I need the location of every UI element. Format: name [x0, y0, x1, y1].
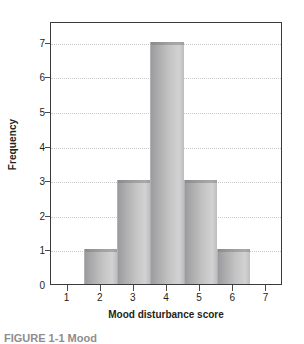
x-axis-ticklabel: 7	[263, 292, 269, 303]
figure-histogram: Frequency 01234567 1234567 Mood disturba…	[0, 0, 304, 344]
x-axis-tick	[265, 285, 266, 291]
x-axis-tick	[67, 285, 68, 291]
x-axis-tick	[133, 285, 134, 291]
x-axis-ticks	[50, 285, 282, 292]
figure-caption: FIGURE 1-1 Mood	[4, 334, 204, 344]
x-axis-ticklabel: 1	[64, 292, 70, 303]
y-axis-title-text: Frequency	[8, 118, 19, 169]
x-axis-tick	[232, 285, 233, 291]
y-axis-title: Frequency	[0, 0, 26, 288]
bar	[184, 180, 217, 284]
x-axis-ticklabel: 4	[163, 292, 169, 303]
x-axis-ticklabel: 2	[97, 292, 103, 303]
x-axis-tick	[166, 285, 167, 291]
x-axis-ticklabels: 1234567	[50, 292, 282, 306]
bar	[84, 249, 117, 284]
x-axis-tick	[100, 285, 101, 291]
plot-frame	[50, 22, 282, 285]
plot-area	[51, 23, 281, 284]
x-axis-ticklabel: 3	[130, 292, 136, 303]
figure-caption-text: FIGURE 1-1 Mood	[4, 334, 204, 344]
x-axis-tick	[199, 285, 200, 291]
bar	[150, 42, 183, 284]
x-axis-ticklabel: 5	[196, 292, 202, 303]
bar	[217, 249, 250, 284]
bar	[117, 180, 150, 284]
x-axis-ticklabel: 6	[230, 292, 236, 303]
x-axis-title: Mood disturbance score	[50, 309, 282, 320]
